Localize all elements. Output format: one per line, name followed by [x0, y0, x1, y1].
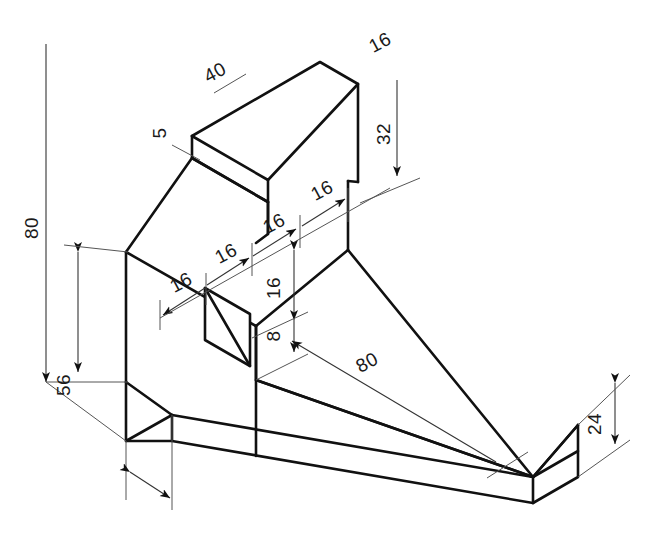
- solid-model: [126, 62, 578, 503]
- dim-text-overall-height: 80: [21, 217, 42, 239]
- dim-text-top-arm-length: 40: [200, 58, 229, 87]
- back-plate-upper-edge: [348, 181, 358, 182]
- dim-web-height: [46, 245, 128, 382]
- dim-text-base-thickness: 24: [584, 413, 605, 435]
- dim-text-top-plate-thickness: 5: [149, 127, 170, 138]
- dim-56-ext-upper: [64, 245, 128, 252]
- isometric-drawing: 80 56 40 5 16 32 16 16 16 16 16 8 80 24: [0, 0, 651, 533]
- base-right-back-vertical: [533, 451, 578, 503]
- dim-text-web-height: 56: [53, 374, 74, 396]
- dim-text-top-offset: 16: [365, 28, 394, 57]
- dim-text-hole-vertical: 16: [263, 277, 284, 299]
- dim-text-hole-bottom-offset: 8: [263, 330, 284, 341]
- dim-baseleft-line: [130, 472, 170, 498]
- dim-24-ext-lower: [578, 440, 630, 477]
- dim-text-top-drop: 32: [373, 123, 394, 145]
- technical-drawing-canvas: 80 56 40 5 16 32 16 16 16 16 16 8 80 24: [0, 0, 651, 533]
- wedge-right-end-top: [533, 425, 578, 477]
- dim-32-ext-lower: [360, 178, 420, 203]
